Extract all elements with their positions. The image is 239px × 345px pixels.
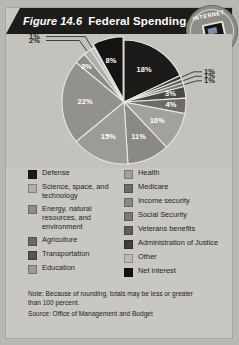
legend-swatch xyxy=(124,198,133,207)
pie-slice-label: 3% xyxy=(81,63,92,71)
legend-item[interactable]: Other xyxy=(124,252,232,263)
pie-slice-label: 8% xyxy=(106,57,117,65)
legend-swatch xyxy=(124,212,133,221)
legend-swatch xyxy=(124,226,133,235)
legend-item[interactable]: Social Security xyxy=(124,210,232,221)
figure-panel: Figure 14.6 Federal Spending, 2003 INTER… xyxy=(6,8,232,338)
legend-item[interactable]: Administration of Justice xyxy=(124,238,232,249)
pie-label-leader-line xyxy=(46,37,92,48)
legend-item-label: Administration of Justice xyxy=(138,238,218,247)
pie-label-leader-line xyxy=(183,76,202,80)
legend-column-right: HealthMedicareIncome securitySocial Secu… xyxy=(124,168,232,280)
pie-slice-label: 3% xyxy=(165,90,176,98)
pie-slice-label: 4% xyxy=(166,101,177,109)
legend-swatch xyxy=(28,170,37,179)
legend-item[interactable]: Education xyxy=(28,263,128,274)
legend-item-label: Agriculture xyxy=(42,235,77,244)
legend-item-label: Net interest xyxy=(138,266,176,275)
legend-item[interactable]: Veterans benefits xyxy=(124,224,232,235)
pie-chart-svg xyxy=(6,34,232,168)
figure-note: Note: Because of rounding, totals may be… xyxy=(6,290,232,338)
legend-swatch xyxy=(124,240,133,249)
legend-swatch xyxy=(124,254,133,263)
legend-swatch xyxy=(124,268,133,277)
legend-item[interactable]: Income security xyxy=(124,196,232,207)
pie-slice-label: 1% xyxy=(204,77,215,85)
legend-item-label: Social Security xyxy=(138,210,187,219)
pie-slice-label: 10% xyxy=(150,117,165,125)
legend-item-label: Transportation xyxy=(42,249,89,258)
pie-chart-area: 18%1%1%1%3%4%10%11%15%22%3%2%1%8% xyxy=(6,34,232,168)
legend-item[interactable]: Medicare xyxy=(124,182,232,193)
pie-slice-label: 22% xyxy=(78,98,93,106)
legend-item-label: Income security xyxy=(138,196,190,205)
pie-label-leader-line xyxy=(46,41,87,52)
legend-item-label: Education xyxy=(42,263,75,272)
figure-number: Figure 14.6 xyxy=(23,15,82,27)
legend-item[interactable]: Agriculture xyxy=(28,235,128,246)
title-bar-corner-cut xyxy=(6,8,20,34)
legend-item-label: Medicare xyxy=(138,182,168,191)
chart-legend: DefenseScience, space, and technologyEne… xyxy=(6,168,232,286)
legend-item-label: Other xyxy=(138,252,156,261)
legend-swatch xyxy=(28,265,37,274)
legend-item-label: Defense xyxy=(42,168,70,177)
pie-slice-label: 1% xyxy=(29,33,40,41)
pie-slice-label: 11% xyxy=(131,133,146,141)
legend-item-label: Energy, natural resources, and environme… xyxy=(42,204,128,232)
pie-slice-label: 18% xyxy=(137,66,152,74)
legend-item-label: Health xyxy=(138,168,159,177)
legend-item-label: Veterans benefits xyxy=(138,224,195,233)
legend-swatch xyxy=(28,205,37,214)
legend-item[interactable]: Science, space, and technology xyxy=(28,182,128,200)
legend-item-label: Science, space, and technology xyxy=(42,182,128,200)
note-source: Source: Office of Management and Budget xyxy=(28,310,220,319)
pie-slice-label: 15% xyxy=(101,133,116,141)
legend-item[interactable]: Health xyxy=(124,168,232,179)
legend-column-left: DefenseScience, space, and technologyEne… xyxy=(28,168,128,277)
legend-item[interactable]: Energy, natural resources, and environme… xyxy=(28,204,128,232)
legend-item[interactable]: Transportation xyxy=(28,249,128,260)
note-line-2: than 100 percent. xyxy=(28,299,220,308)
legend-swatch xyxy=(28,251,37,260)
note-line-1: Note: Because of rounding, totals may be… xyxy=(28,290,220,299)
legend-swatch xyxy=(124,170,133,179)
legend-item[interactable]: Net interest xyxy=(124,266,232,277)
legend-swatch xyxy=(124,184,133,193)
legend-swatch xyxy=(28,184,37,193)
legend-swatch xyxy=(28,237,37,246)
pie-label-leader-line xyxy=(184,81,202,85)
legend-item[interactable]: Defense xyxy=(28,168,128,179)
